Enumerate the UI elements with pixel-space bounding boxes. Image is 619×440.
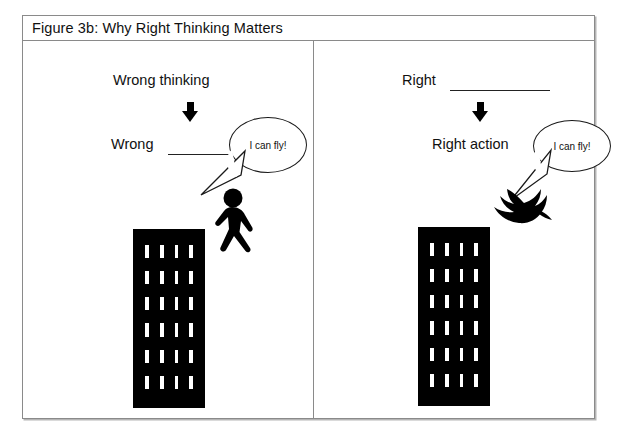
panels-row: Wrong thinking Wrong I can fly! [23,41,594,418]
right-bubble-text: I can fly! [533,120,611,172]
right-blank-line [450,90,550,91]
figure-container: Figure 3b: Why Right Thinking Matters Wr… [22,15,595,419]
building-left [133,229,205,408]
left-top-caption: Wrong thinking [113,72,209,88]
right-bottom-caption: Right action [432,136,509,152]
right-top-caption: Right [402,72,436,88]
page-title: Figure 3b: Why Right Thinking Matters [23,20,283,36]
flying-bird-icon [487,183,553,229]
left-bubble-text: I can fly! [229,117,307,173]
building-left-windows [133,229,205,408]
building-right [418,227,490,406]
wrong-thinking-panel: Wrong thinking Wrong I can fly! [23,41,313,418]
left-bottom-caption: Wrong [111,136,153,152]
figure-title-bar: Figure 3b: Why Right Thinking Matters [23,16,594,41]
right-speech-bubble: I can fly! [533,120,611,172]
building-right-windows [418,227,490,406]
left-speech-bubble: I can fly! [229,117,307,173]
right-thinking-panel: Right Right action I can fly! [313,41,594,418]
walking-person-icon [208,186,272,258]
